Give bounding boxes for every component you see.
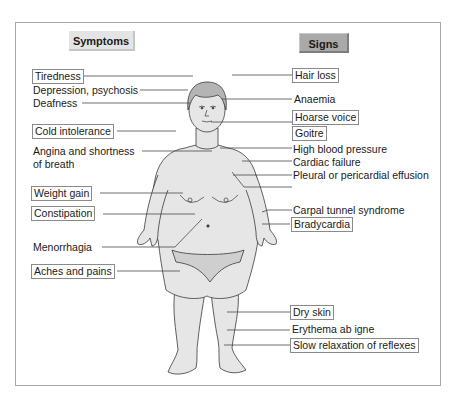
sign-cardiac-failure: Cardiac failure	[293, 156, 361, 169]
symptom-cold-intolerance: Cold intolerance	[32, 124, 114, 139]
sign-dry-skin: Dry skin	[290, 305, 334, 320]
sign-anaemia: Anaemia	[294, 93, 335, 106]
symptom-menorrhagia: Menorrhagia	[33, 241, 92, 254]
sign-bradycardia: Bradycardia	[291, 217, 353, 232]
symptom-depression: Depression, psychosis	[33, 84, 138, 97]
sign-slow-reflexes: Slow relaxation of reflexes	[290, 338, 419, 353]
sign-carpal-tunnel: Carpal tunnel syndrome	[293, 204, 404, 217]
symptom-constipation: Constipation	[31, 206, 95, 221]
symptom-weight-gain: Weight gain	[31, 186, 92, 201]
symptom-angina-cont: of breath	[33, 158, 74, 171]
signs-header: Signs	[299, 33, 349, 53]
symptom-aches-pains: Aches and pains	[31, 264, 115, 279]
symptom-tiredness: Tiredness	[32, 69, 84, 84]
symptom-deafness: Deafness	[33, 97, 77, 110]
sign-pleural-effusion: Pleural or pericardial effusion	[293, 169, 429, 182]
symptoms-header: Symptoms	[69, 31, 135, 51]
sign-hair-loss: Hair loss	[292, 68, 339, 83]
sign-hoarse-voice: Hoarse voice	[292, 110, 359, 125]
sign-erythema-ab-igne: Erythema ab igne	[292, 323, 374, 336]
sign-goitre: Goitre	[292, 126, 327, 141]
sign-high-blood-pressure: High blood pressure	[293, 143, 387, 156]
symptom-angina: Angina and shortness	[33, 145, 135, 158]
